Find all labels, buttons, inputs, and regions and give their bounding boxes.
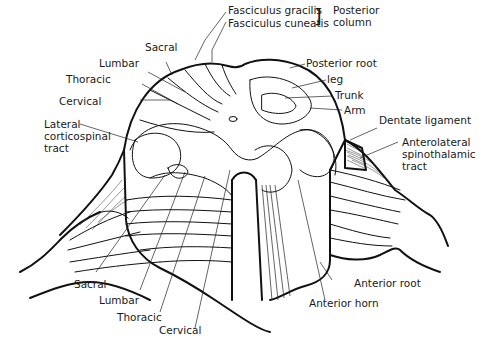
label-lumbar-bottom: Lumbar [99, 294, 139, 306]
label-dentate-ligament: Dentate ligament [379, 114, 471, 126]
spinal-cord-outline [124, 60, 345, 332]
spinal-cord-drawing [0, 0, 484, 349]
label-arm: Arm [344, 104, 366, 116]
label-fasciculus-gracilis: Fasciculus gracilis [228, 4, 322, 16]
label-lumbar-top: Lumbar [99, 57, 139, 69]
label-anterior-root: Anterior root [354, 277, 421, 289]
label-sacral-top: Sacral [145, 41, 178, 53]
label-sacral-bottom: Sacral [74, 278, 107, 290]
label-anterior-horn: Anterior horn [309, 297, 379, 309]
posterior-column-bracket: ] [314, 6, 322, 26]
label-posterior-column: Posteriorcolumn [333, 4, 379, 28]
spinal-cord-diagram: Fasciculus gracilis Fasciculus cuneatis … [0, 0, 484, 349]
label-thoracic-top: Thoracic [66, 73, 111, 85]
label-leg: leg [327, 73, 343, 85]
label-cervical-bottom: Cervical [159, 324, 201, 336]
label-anterolateral-spinothalamic-tract: Anterolateralspinothalamictract [402, 136, 476, 172]
label-lateral-corticospinal-tract: Lateralcorticospinaltract [44, 118, 111, 154]
anterior-horn-fibers [262, 185, 290, 300]
label-posterior-root: Posterior root [306, 57, 377, 69]
anterior-fibers [126, 196, 232, 262]
label-thoracic-bottom: Thoracic [117, 311, 162, 323]
label-cervical-top: Cervical [59, 95, 101, 107]
label-trunk: Trunk [335, 89, 364, 101]
